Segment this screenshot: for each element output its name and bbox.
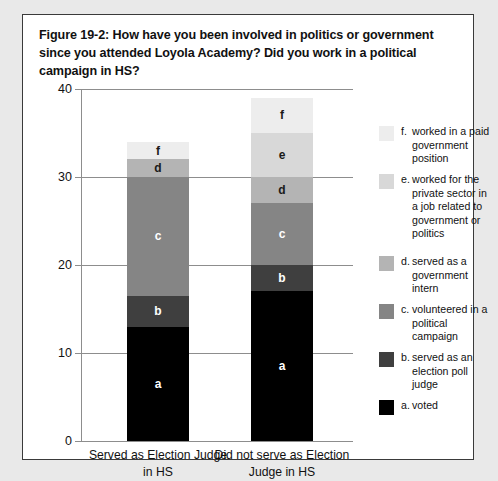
legend-label: worked for the private sector in a job r… <box>412 173 493 241</box>
bar-segment-b[interactable]: b <box>127 296 189 327</box>
legend-key: e. <box>401 173 410 185</box>
gridline-0 <box>81 441 353 442</box>
y-tick-mark <box>75 89 81 90</box>
y-tick-mark <box>75 441 81 442</box>
legend-key: d. <box>401 255 410 267</box>
legend-swatch-a <box>379 400 394 415</box>
y-tick-label: 40 <box>58 82 72 96</box>
figure-caption: Figure 19-2: How have you been involved … <box>39 27 459 81</box>
legend-label: volunteered in a political campaign <box>412 303 493 344</box>
bar-segment-d[interactable]: d <box>127 159 189 177</box>
y-tick-mark <box>75 353 81 354</box>
chart-plot-area: 010203040 abcdfabcdef Served as Election… <box>81 89 353 441</box>
legend-swatch-e <box>379 174 394 189</box>
bar-segment-f[interactable]: f <box>251 98 313 133</box>
bar-segment-c[interactable]: c <box>127 177 189 296</box>
legend-item-f[interactable]: f.worked in a paid government position <box>379 125 493 166</box>
legend-key: f. <box>401 125 410 137</box>
legend-swatch-b <box>379 352 394 367</box>
y-tick-mark <box>75 265 81 266</box>
y-tick-label: 30 <box>58 170 72 184</box>
bar-segment-f[interactable]: f <box>127 142 189 160</box>
bar-segment-e[interactable]: e <box>251 133 313 177</box>
bar-segment-a[interactable]: a <box>251 291 313 441</box>
bar-1[interactable]: abcdf <box>127 89 189 441</box>
legend-swatch-d <box>379 256 394 271</box>
legend-key: c. <box>401 303 410 315</box>
y-tick-label: 0 <box>65 434 72 448</box>
figure-container: Figure 19-2: How have you been involved … <box>22 14 474 460</box>
legend-key: a. <box>401 399 410 411</box>
legend-item-a[interactable]: a.voted <box>379 399 438 415</box>
y-tick-label: 20 <box>58 258 72 272</box>
legend-item-d[interactable]: d.served as a government intern <box>379 255 493 296</box>
legend-swatch-f <box>379 126 394 141</box>
y-tick-label: 10 <box>58 346 72 360</box>
legend-label: served as a government intern <box>412 255 493 296</box>
legend-key: b. <box>401 351 410 363</box>
y-tick-mark <box>75 177 81 178</box>
legend-swatch-c <box>379 304 394 319</box>
legend-item-e[interactable]: e.worked for the private sector in a job… <box>379 173 493 241</box>
bar-segment-c[interactable]: c <box>251 203 313 265</box>
x-axis-label-2: Did not serve as Election Judge in HS <box>207 447 357 481</box>
legend-label: voted <box>412 399 438 413</box>
legend-label: worked in a paid government position <box>412 125 493 166</box>
bar-segment-d[interactable]: d <box>251 177 313 203</box>
bar-2[interactable]: abcdef <box>251 89 313 441</box>
bar-segment-b[interactable]: b <box>251 265 313 291</box>
legend-item-b[interactable]: b.served as an election poll judge <box>379 351 493 392</box>
legend-item-c[interactable]: c.volunteered in a political campaign <box>379 303 493 344</box>
bar-segment-a[interactable]: a <box>127 327 189 441</box>
legend-label: served as an election poll judge <box>412 351 493 392</box>
